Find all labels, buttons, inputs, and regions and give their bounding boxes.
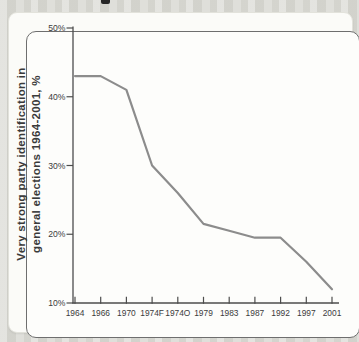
x-tick-label: 1979 [194,308,213,318]
y-tick-label: 30% [48,161,66,171]
y-tick-label: 20% [48,229,66,239]
x-tick-label: 1987 [246,308,265,318]
line-chart: 50%40%30%20%10%1964196619701974F1974O197… [0,0,359,342]
x-tick-label: 1992 [271,308,290,318]
x-tick-label: 1974O [165,308,191,318]
x-tick-label: 1966 [91,308,110,318]
data-line-series [75,76,332,289]
y-tick-label: 50% [48,23,66,33]
y-tick-label: 40% [48,92,66,102]
x-tick-label: 2001 [323,308,342,318]
x-tick-label: 1997 [297,308,316,318]
x-tick-label: 1964 [66,308,85,318]
x-tick-label: 1983 [220,308,239,318]
x-tick-label: 1974F [140,308,164,318]
y-tick-label: 10% [48,298,66,308]
x-tick-label: 1970 [117,308,136,318]
